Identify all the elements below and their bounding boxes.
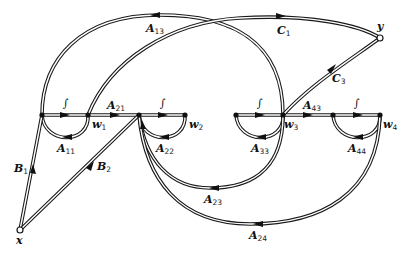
edge-a11 — [42, 115, 88, 138]
node-x[interactable] — [17, 227, 23, 233]
label-w2: w2 — [189, 118, 203, 132]
label-a44: A44 — [347, 142, 366, 156]
edge-a22 — [139, 115, 185, 138]
node-w3[interactable] — [280, 112, 285, 117]
arrow-left-icon — [209, 185, 219, 191]
node-b[interactable] — [136, 112, 141, 117]
node-labels: w1 w2 w3 w4 x y — [15, 20, 397, 247]
node-w1[interactable] — [85, 112, 90, 117]
node-w4[interactable] — [377, 112, 382, 117]
integral-icon: ∫ — [160, 97, 166, 110]
edge-a24 — [139, 115, 380, 224]
node-y[interactable] — [377, 35, 383, 41]
label-w4: w4 — [383, 118, 397, 132]
edge-a33 — [236, 115, 283, 138]
label-x: x — [15, 234, 23, 247]
signal-flow-graph: ∫ ∫ ∫ ∫ w1 w2 w3 w4 x y A13 C1 C3 A21 A4… — [0, 0, 408, 253]
label-w1: w1 — [92, 118, 106, 132]
nodes — [17, 35, 383, 233]
label-a24: A24 — [248, 229, 267, 243]
node-a[interactable] — [39, 112, 44, 117]
node-c[interactable] — [233, 112, 238, 117]
node-d[interactable] — [330, 112, 335, 117]
arrow-right-icon — [353, 112, 363, 118]
label-b1: B1 — [13, 162, 28, 176]
edge-a44 — [333, 115, 380, 138]
edge-c1 — [88, 17, 380, 115]
integral-icon: ∫ — [63, 97, 69, 110]
label-c3: C3 — [332, 72, 346, 86]
label-a33: A33 — [250, 142, 269, 156]
label-w3: w3 — [284, 118, 298, 132]
label-b2: B2 — [96, 160, 111, 174]
arrow-left-icon — [253, 221, 263, 227]
label-a13: A13 — [145, 22, 164, 36]
arrow-right-icon — [255, 112, 265, 118]
arrow-right-icon — [60, 112, 70, 118]
label-a23: A23 — [203, 193, 222, 207]
label-a43: A43 — [302, 99, 321, 113]
node-w2[interactable] — [182, 112, 187, 117]
label-a22: A22 — [155, 142, 174, 156]
arrow-right-icon — [158, 112, 168, 118]
integral-icon: ∫ — [257, 97, 263, 110]
integral-icon: ∫ — [354, 97, 360, 110]
label-a21: A21 — [106, 99, 125, 113]
label-y: y — [376, 20, 385, 33]
label-a11: A11 — [56, 142, 75, 156]
label-c1: C1 — [277, 24, 291, 38]
arrow-left-icon — [150, 12, 160, 18]
